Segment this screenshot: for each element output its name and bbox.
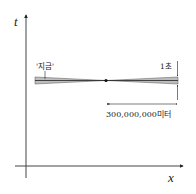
now-label: '지금' — [36, 62, 54, 71]
x-axis-label: x — [167, 170, 174, 185]
time-span-label: 1초 — [160, 62, 172, 71]
observer-point — [104, 79, 107, 82]
distance-label: 300,000,000미터 — [106, 110, 171, 119]
now-slice-band — [35, 77, 178, 84]
y-axis-label: t — [14, 14, 18, 29]
spacetime-diagram: t x '지금' 1초 300,000,000미터 — [0, 0, 196, 194]
